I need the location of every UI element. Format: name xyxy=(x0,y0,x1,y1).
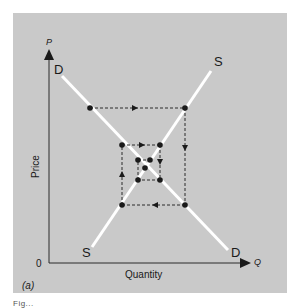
arrow-right-icon xyxy=(132,105,138,111)
demand-label-top: D xyxy=(54,63,63,76)
origin-label: 0 xyxy=(36,259,42,269)
arrow-right-icon xyxy=(139,142,145,148)
demand-label-bottom: D xyxy=(231,246,240,259)
arrow-down-icon xyxy=(157,159,163,165)
panel-label: (a) xyxy=(22,281,34,291)
x-axis-arrow-icon xyxy=(240,258,251,268)
supply-label-bottom: S xyxy=(82,246,91,259)
arrow-down-icon xyxy=(182,145,188,151)
x-axis-label: Quantity xyxy=(125,270,162,280)
axes xyxy=(44,49,251,268)
y-axis-label: Price xyxy=(31,155,41,178)
figure-caption: Fig... xyxy=(13,299,34,308)
arrow-up-icon xyxy=(119,171,125,177)
demand-curve xyxy=(62,76,228,250)
x-axis-symbol: Q xyxy=(254,258,261,267)
supply-label-top: S xyxy=(214,55,223,68)
y-axis-symbol: P xyxy=(46,38,52,47)
equilibrium-point xyxy=(142,165,148,171)
arrow-left-icon xyxy=(152,202,158,208)
y-axis-arrow-icon xyxy=(44,49,54,60)
